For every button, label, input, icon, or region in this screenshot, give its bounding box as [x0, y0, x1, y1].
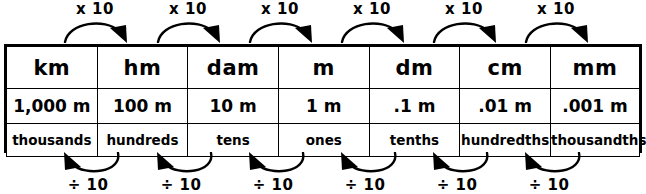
unit-abbreviation-cell: mm — [551, 47, 640, 89]
multiply-operation-group: x 10 — [326, 0, 418, 44]
divide-label: ÷ 10 — [42, 176, 134, 194]
unit-abbreviation-cell: dm — [369, 47, 460, 89]
divide-operation-group: ÷ 10 — [319, 152, 411, 194]
multiply-operation-group: x 10 — [49, 0, 141, 44]
unit-value-cell: 1,000 m — [7, 89, 98, 124]
unit-value-cell: 100 m — [97, 89, 188, 124]
multiply-arrow-band: x 10x 10x 10x 10x 10x 10 — [0, 0, 646, 44]
unit-abbreviation-cell: cm — [460, 47, 551, 89]
unit-abbreviation-cell: hm — [97, 47, 188, 89]
divide-label: ÷ 10 — [227, 176, 319, 194]
divide-operation-group: ÷ 10 — [411, 152, 503, 194]
curved-arrow-left-icon — [319, 152, 411, 178]
metric-conversion-chart: x 10x 10x 10x 10x 10x 10 kmhmdammdmcmmm … — [0, 0, 646, 194]
curved-arrow-left-icon — [503, 152, 595, 178]
table-row-abbreviations: kmhmdammdmcmmm — [7, 47, 640, 89]
curved-arrow-right-icon — [326, 17, 418, 43]
unit-value-cell: .1 m — [369, 89, 460, 124]
curved-arrow-left-icon — [411, 152, 503, 178]
divide-operation-group: ÷ 10 — [42, 152, 134, 194]
unit-value-cell: .001 m — [551, 89, 640, 124]
multiply-operation-group: x 10 — [142, 0, 234, 44]
curved-arrow-right-icon — [418, 17, 510, 43]
curved-arrow-right-icon — [234, 17, 326, 43]
unit-value-cell: 1 m — [278, 89, 369, 124]
curved-arrow-right-icon — [142, 17, 234, 43]
divide-label: ÷ 10 — [503, 176, 595, 194]
metric-units-table: kmhmdammdmcmmm 1,000 m100 m10 m1 m.1 m.0… — [4, 44, 642, 153]
curved-arrow-left-icon — [42, 152, 134, 178]
divide-operation-group: ÷ 10 — [227, 152, 319, 194]
multiply-operation-group: x 10 — [418, 0, 510, 44]
multiply-operation-group: x 10 — [234, 0, 326, 44]
multiply-label: x 10 — [234, 0, 326, 18]
unit-value-cell: .01 m — [460, 89, 551, 124]
multiply-label: x 10 — [326, 0, 418, 18]
divide-label: ÷ 10 — [411, 176, 503, 194]
multiply-label: x 10 — [418, 0, 510, 18]
divide-operation-group: ÷ 10 — [135, 152, 227, 194]
divide-label: ÷ 10 — [319, 176, 411, 194]
table-row-values: 1,000 m100 m10 m1 m.1 m.01 m.001 m — [7, 89, 640, 124]
curved-arrow-left-icon — [227, 152, 319, 178]
curved-arrow-left-icon — [135, 152, 227, 178]
unit-abbreviation-cell: m — [278, 47, 369, 89]
unit-abbreviation-cell: dam — [188, 47, 279, 89]
multiply-operation-group: x 10 — [510, 0, 602, 44]
curved-arrow-right-icon — [49, 17, 141, 43]
curved-arrow-right-icon — [510, 17, 602, 43]
divide-label: ÷ 10 — [135, 176, 227, 194]
multiply-label: x 10 — [510, 0, 602, 18]
unit-abbreviation-cell: km — [7, 47, 98, 89]
multiply-label: x 10 — [142, 0, 234, 18]
divide-operation-group: ÷ 10 — [503, 152, 595, 194]
divide-arrow-band: ÷ 10÷ 10÷ 10÷ 10÷ 10÷ 10 — [0, 152, 646, 194]
unit-value-cell: 10 m — [188, 89, 279, 124]
multiply-label: x 10 — [49, 0, 141, 18]
